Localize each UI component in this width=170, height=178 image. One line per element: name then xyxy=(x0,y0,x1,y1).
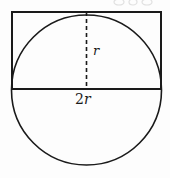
diameter-label: 2r xyxy=(75,92,91,106)
figure-canvas xyxy=(0,0,170,178)
radius-label: r xyxy=(93,44,99,57)
diameter-label-symbol: r xyxy=(84,91,91,107)
geometry-figure: r 2r xyxy=(0,0,170,178)
circle-shape xyxy=(12,15,162,165)
diameter-label-coefficient: 2 xyxy=(75,91,84,107)
